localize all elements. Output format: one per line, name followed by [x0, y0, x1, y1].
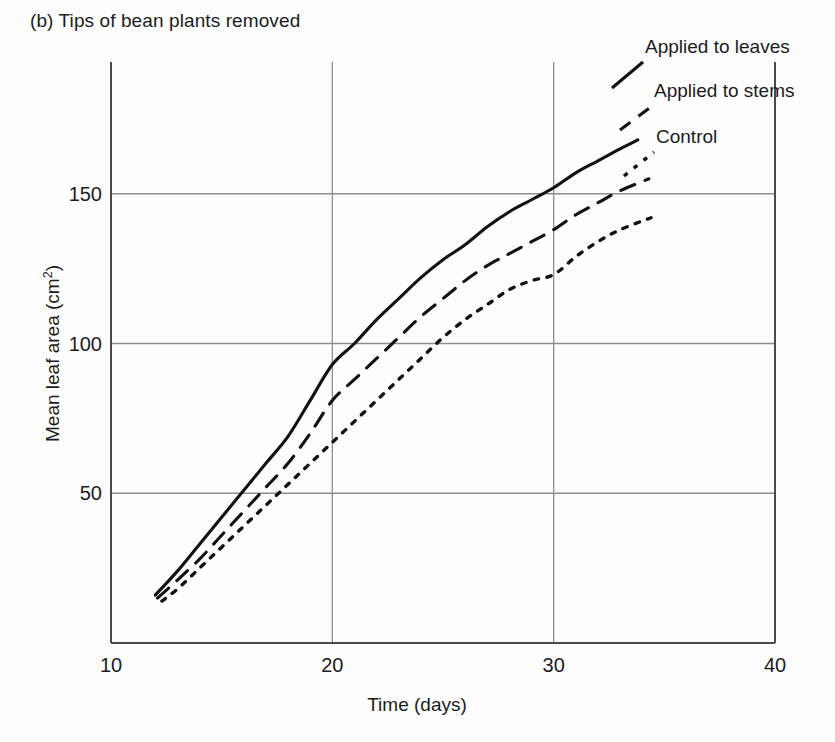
x-tick-label: 40	[764, 654, 786, 677]
y-tick-label: 150	[40, 182, 102, 205]
x-tick-label: 10	[100, 654, 122, 677]
x-tick-label: 20	[321, 654, 343, 677]
series-line-applied-to-leaves	[155, 140, 638, 595]
y-tick-label: 50	[40, 482, 102, 505]
series-line-control	[162, 218, 651, 601]
x-axis-title: Time (days)	[367, 694, 467, 716]
series-line-applied-to-stems	[157, 179, 648, 598]
chart-figure: (b) Tips of bean plants removed 50100150…	[0, 0, 835, 742]
y-axis-title-tail: )	[42, 265, 63, 271]
leader-control	[624, 152, 654, 176]
leader-applied-to-leaves	[612, 62, 643, 88]
y-axis-title-text: Mean leaf area (cm	[42, 278, 63, 442]
leader-applied-to-stems	[620, 106, 652, 130]
series-label-control: Control	[656, 126, 717, 148]
plot-canvas	[0, 0, 835, 742]
series-label-applied-to-leaves: Applied to leaves	[645, 36, 790, 58]
annotation-leaders-group	[612, 62, 654, 176]
data-series-group	[155, 140, 651, 601]
y-axis-title: Mean leaf area (cm2)	[42, 265, 64, 442]
x-tick-label: 30	[543, 654, 565, 677]
y-axis-title-superscript: 2	[41, 271, 55, 278]
series-label-applied-to-stems: Applied to stems	[654, 80, 794, 102]
